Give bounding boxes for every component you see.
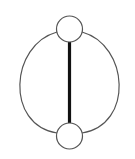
node-top <box>57 16 83 42</box>
edge-curved-right <box>82 32 119 133</box>
edge-curved-left <box>20 32 57 133</box>
node-bottom <box>57 123 83 149</box>
graph-diagram <box>0 0 135 159</box>
